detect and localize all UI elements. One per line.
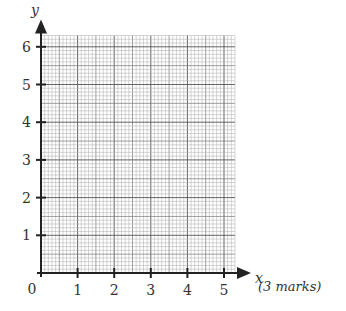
y-tick-label: 6: [22, 39, 31, 55]
y-tick-label: 3: [22, 152, 31, 168]
axes: [35, 19, 251, 279]
graph-grid: 123451234560xy: [0, 0, 346, 311]
y-tick-label: 5: [22, 77, 31, 93]
marks-label: (3 marks): [258, 279, 321, 294]
x-tick-label: 4: [183, 282, 192, 298]
x-tick-label: 5: [220, 282, 229, 298]
y-axis-label: y: [30, 2, 40, 18]
y-tick-label: 1: [22, 227, 31, 243]
y-tick-label: 2: [22, 190, 31, 206]
x-tick-label: 3: [146, 282, 155, 298]
x-axis-arrow-icon: [237, 267, 251, 279]
grid-lines: [41, 35, 235, 273]
y-tick-label: 4: [22, 114, 31, 130]
origin-label: 0: [28, 281, 37, 297]
x-tick-label: 1: [73, 282, 82, 298]
y-axis-arrow-icon: [35, 19, 47, 33]
x-tick-label: 2: [110, 282, 119, 298]
